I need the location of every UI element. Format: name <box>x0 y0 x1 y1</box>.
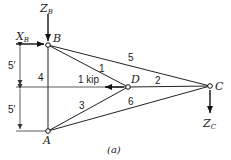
applied-load-label: 1 kip <box>78 74 100 85</box>
joint-b <box>46 43 51 48</box>
member-label-4: 4 <box>38 72 44 83</box>
member-3 <box>48 87 128 131</box>
joint-a <box>46 129 51 134</box>
joint-d <box>126 85 131 90</box>
member-label-2: 2 <box>155 75 161 86</box>
forces <box>16 14 210 113</box>
dimension-label-lower: 5′ <box>8 104 16 115</box>
dimension-label-upper: 5′ <box>8 60 16 71</box>
member-2 <box>128 86 210 87</box>
member-label-5: 5 <box>128 52 134 63</box>
node-label-a: A <box>42 134 51 147</box>
reaction-zc-label: ZC <box>202 117 217 131</box>
dimension-lines <box>16 47 128 131</box>
truss-diagram: B A D C 1 2 3 4 5 6 1 kip ZB XB ZC 5′ 5′… <box>0 0 231 160</box>
node-label-d: D <box>130 73 140 86</box>
member-label-6: 6 <box>128 96 134 107</box>
member-label-3: 3 <box>79 100 85 111</box>
member-label-1: 1 <box>99 63 105 74</box>
figure-caption: (a) <box>107 144 121 155</box>
reaction-zb-label: ZB <box>39 2 53 16</box>
node-label-c: C <box>215 80 224 93</box>
reaction-xb-label: XB <box>15 30 29 44</box>
joint-c <box>208 84 213 89</box>
node-label-b: B <box>52 32 61 45</box>
member-6 <box>48 86 210 131</box>
